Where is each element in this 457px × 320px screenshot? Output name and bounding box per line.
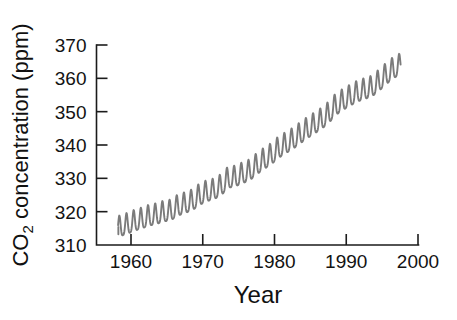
svg-text:CO2 concentration (ppm): CO2 concentration (ppm) xyxy=(8,23,36,266)
y-axis-title: CO2 concentration (ppm) xyxy=(8,23,36,266)
axis-spines xyxy=(97,45,419,245)
x-axis-tickmarks xyxy=(131,234,418,245)
x-tick-label: 1960 xyxy=(110,251,152,272)
y-tick-label: 350 xyxy=(55,102,87,123)
chart-canvas: 310320330340350360370 196019701980199020… xyxy=(0,0,457,320)
y-tick-label: 330 xyxy=(55,168,87,189)
x-tick-label: 1970 xyxy=(182,251,224,272)
y-axis-tickmarks xyxy=(97,45,108,212)
y-axis-tick-labels: 310320330340350360370 xyxy=(55,35,87,256)
x-tick-label: 1980 xyxy=(253,251,295,272)
co2-concentration-chart: 310320330340350360370 196019701980199020… xyxy=(0,0,457,320)
x-axis-title: Year xyxy=(234,281,283,308)
co2-keeling-curve-line xyxy=(118,54,401,235)
y-tick-label: 310 xyxy=(55,235,87,256)
y-tick-label: 360 xyxy=(55,68,87,89)
x-axis-tick-labels: 19601970198019902000 xyxy=(110,251,439,272)
y-tick-label: 370 xyxy=(55,35,87,56)
y-tick-label: 340 xyxy=(55,135,87,156)
x-tick-label: 2000 xyxy=(397,251,439,272)
x-tick-label: 1990 xyxy=(325,251,367,272)
y-tick-label: 320 xyxy=(55,202,87,223)
